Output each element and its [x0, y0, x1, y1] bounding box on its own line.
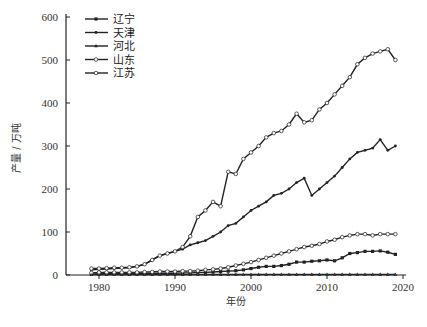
legend-label: 河北 — [113, 40, 135, 53]
y-axis-title: 产量 / 万吨 — [10, 123, 22, 173]
line-chart: 0100200300400500600 19801990200020102020… — [0, 0, 427, 327]
legend-label: 辽宁 — [113, 12, 135, 26]
legend-item-liaoning: 辽宁 — [85, 12, 135, 26]
y-tick-label: 400 — [42, 97, 59, 109]
plot-series — [90, 47, 398, 275]
legend-item-tianjin: 天津 — [85, 27, 135, 40]
legend-marker-icon — [94, 71, 98, 75]
y-tick-label: 600 — [42, 11, 59, 23]
legend-marker-icon — [94, 58, 98, 62]
y-tick-label: 200 — [42, 183, 59, 195]
x-tick-label: 2010 — [316, 281, 339, 293]
legend-marker-icon — [94, 17, 97, 20]
x-axis-title: 年份 — [226, 295, 246, 307]
legend-marker-icon — [95, 31, 98, 34]
y-tick-label: 500 — [42, 54, 59, 66]
x-ticks: 19801990200020102020 — [88, 273, 415, 293]
y-tick-label: 0 — [53, 269, 59, 281]
x-tick-label: 1990 — [164, 281, 187, 293]
y-tick-label: 300 — [42, 140, 59, 152]
legend-item-shandong: 山东 — [85, 54, 135, 67]
x-tick-label: 2000 — [240, 281, 263, 293]
legend-item-jiangsu: 江苏 — [85, 67, 135, 80]
legend: 辽宁天津河北山东江苏 — [85, 12, 135, 80]
x-tick-label: 2020 — [392, 281, 415, 293]
legend-label: 山东 — [113, 54, 135, 67]
legend-label: 江苏 — [113, 67, 135, 80]
y-tick-label: 100 — [42, 226, 59, 238]
legend-item-hebei: 河北 — [85, 40, 135, 53]
axes: 0100200300400500600 19801990200020102020… — [10, 11, 415, 307]
x-tick-label: 1980 — [88, 281, 111, 293]
legend-label: 天津 — [113, 27, 135, 40]
